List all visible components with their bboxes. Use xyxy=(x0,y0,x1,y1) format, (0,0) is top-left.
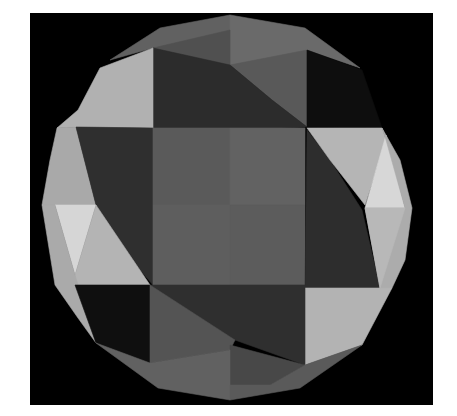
face-center-q3 xyxy=(153,205,230,285)
polyhedron-render: Shaded geodesic polyhedron render xyxy=(0,0,457,416)
polyhedron-faces xyxy=(42,15,412,400)
face-center-q4 xyxy=(230,205,305,285)
face-center-q1 xyxy=(153,128,230,205)
face-center-q2 xyxy=(230,128,305,205)
